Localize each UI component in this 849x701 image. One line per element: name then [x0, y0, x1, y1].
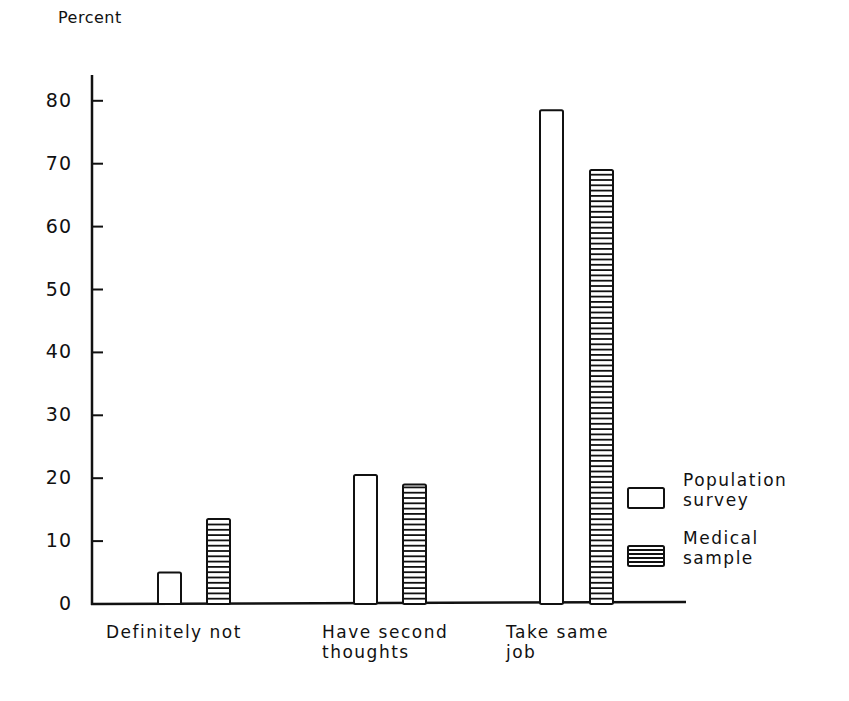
bar-population-survey: [540, 110, 563, 604]
y-tick-label: 70: [34, 152, 72, 174]
legend-swatch-population: [628, 488, 664, 508]
bar-population-survey: [158, 573, 181, 604]
legend-item-medical-sample: Medicalsample: [683, 528, 759, 568]
category-label: Take samejob: [506, 622, 609, 662]
chart-plot: [0, 0, 849, 701]
category-label: Have secondthoughts: [322, 622, 448, 662]
y-tick-label: 10: [34, 529, 72, 551]
y-tick-label: 20: [34, 466, 72, 488]
y-tick-label: 40: [34, 340, 72, 362]
y-tick-label: 50: [34, 278, 72, 300]
legend-swatch-medical: [628, 546, 664, 566]
bar-population-survey: [354, 475, 377, 604]
y-tick-label: 0: [34, 592, 72, 614]
y-tick-label: 60: [34, 215, 72, 237]
legend-item-population-survey: Populationsurvey: [683, 470, 787, 510]
y-tick-label: 30: [34, 403, 72, 425]
category-label: Definitely not: [106, 622, 242, 642]
y-tick-label: 80: [34, 89, 72, 111]
